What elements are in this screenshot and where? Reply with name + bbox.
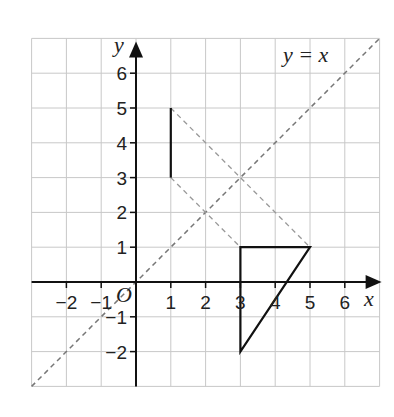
y-tick-label: 5 (116, 98, 127, 119)
x-tick-label: 5 (305, 292, 316, 313)
coordinate-diagram: −2−1123456−2−1123456 y = x x y O (0, 0, 394, 417)
y-tick-label: 6 (116, 63, 127, 84)
y-tick-label: −1 (105, 307, 127, 328)
x-tick-label: 4 (270, 292, 281, 313)
x-tick-label: 3 (235, 292, 246, 313)
x-tick-label: 2 (200, 292, 211, 313)
x-axis-label: x (363, 286, 374, 311)
y-tick-label: 1 (116, 237, 127, 258)
x-tick-label: 6 (340, 292, 351, 313)
y-tick-label: 3 (116, 168, 127, 189)
mirror-line-label: y = x (281, 42, 329, 67)
y-tick-label: 2 (116, 202, 127, 223)
y-axis-label: y (112, 32, 124, 57)
y-axis-arrow-icon (129, 41, 143, 57)
y-tick-label: 4 (116, 133, 127, 154)
x-tick-label: 1 (166, 292, 177, 313)
y-tick-label: −2 (105, 342, 127, 363)
x-tick-label: −2 (56, 292, 78, 313)
origin-label: O (116, 282, 132, 307)
